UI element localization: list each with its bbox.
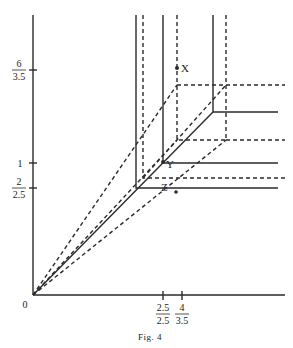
diagram-figure: X Y Z 6 3.5 1 2 2.5 0 2.5 2.5 4 3.5 Fig.… — [0, 0, 293, 348]
point-z-label: Z — [161, 181, 168, 193]
solid-curve-2 — [163, 15, 278, 163]
point-y-label: Y — [166, 158, 174, 170]
point-z — [174, 190, 178, 194]
x-tick-label-4-num: 4 — [180, 302, 185, 313]
origin-label: 0 — [23, 299, 28, 310]
x-tick-label-2.5-num: 2.5 — [157, 302, 170, 313]
dashed-ray-shallow — [33, 140, 226, 295]
point-x — [175, 66, 179, 70]
dashed-ray-upper — [143, 85, 226, 178]
dashed-curve-3 — [177, 15, 226, 140]
dashed-ray-steep — [33, 85, 177, 295]
y-tick-label-1: 1 — [18, 158, 23, 169]
solid-curve-3 — [213, 15, 278, 112]
y-tick-label-6-num: 6 — [17, 58, 22, 69]
y-tick-label-2-num: 2 — [17, 176, 22, 187]
figure-caption: Fig. 4 — [138, 332, 162, 342]
point-y — [161, 160, 165, 164]
x-tick-label-4-den: 3.5 — [176, 315, 189, 326]
x-tick-label-2.5-den: 2.5 — [157, 315, 170, 326]
point-x-label: X — [181, 62, 189, 74]
y-tick-label-6-den: 3.5 — [13, 71, 26, 82]
dashed-ray-middle — [33, 140, 177, 295]
dashed-curve-2 — [177, 15, 285, 85]
y-tick-label-2-den: 2.5 — [13, 189, 26, 200]
